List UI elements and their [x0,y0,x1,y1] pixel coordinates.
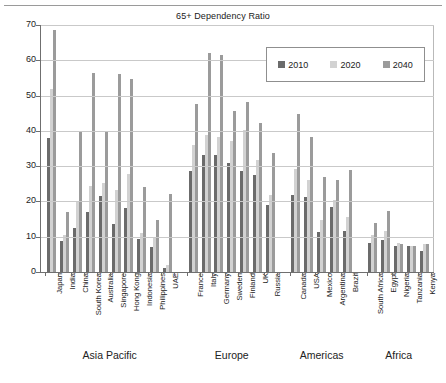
x-tick-mark [71,273,72,276]
x-tick-mark [97,273,98,276]
legend-label-2040: 2040 [393,60,413,70]
x-tick-mark [367,273,368,276]
gridline-30 [41,166,434,167]
bar-brazil-2040 [349,170,352,272]
y-tick-mark-30 [36,166,41,167]
legend-swatch-icon-2010 [278,61,285,68]
x-tick-label-sweden: Sweden [235,273,244,300]
gridline-20 [41,201,434,202]
y-tick-label-10: 10 [6,231,36,241]
x-tick-label-egypt: Egypt [389,273,398,292]
x-tick-mark [187,273,188,276]
bar-finland-2040 [246,102,249,272]
chart-figure: 65+ Dependency Ratio 010203040506070 201… [0,0,446,383]
y-tick-mark-60 [36,60,41,61]
y-tick-mark-20 [36,201,41,202]
y-tick-mark-70 [36,25,41,26]
x-tick-mark [110,273,111,276]
x-tick-mark [135,273,136,276]
x-tick-mark [418,273,419,276]
bar-uae-2040 [169,194,172,272]
x-tick-mark [174,273,175,276]
x-tick-label-hong-kong: Hong Kong [132,273,141,311]
x-tick-label-germany: Germany [222,273,231,304]
legend-swatch-icon-2040 [383,61,390,68]
bar-south-korea-2040 [92,73,95,272]
x-tick-mark [123,273,124,276]
x-tick-label-tanzania: Tanzania [415,273,424,303]
gridline-10 [41,237,434,238]
legend-item-2020[interactable]: 2020 [330,60,360,70]
legend-label-2020: 2020 [340,60,360,70]
y-tick-label-20: 20 [6,195,36,205]
gridline-70 [41,25,434,26]
top-divider-rule [4,5,442,6]
bar-germany-2040 [220,55,223,272]
group-label-americas: Americas [300,349,344,361]
x-tick-label-kenya: Kenya [428,273,437,295]
x-tick-mark [328,273,329,276]
x-tick-mark [45,273,46,276]
y-tick-label-50: 50 [6,90,36,100]
bar-egypt-2040 [387,211,390,272]
y-tick-label-40: 40 [6,125,36,135]
gridline-40 [41,131,434,132]
y-tick-label-0: 0 [6,266,36,276]
x-tick-mark [225,273,226,276]
x-axis-group-labels: Asia PacificEuropeAmericasAfrica [41,349,434,369]
bar-sweden-2040 [233,111,236,272]
x-tick-mark [392,273,393,276]
x-tick-label-uk: UK [261,273,270,284]
legend-item-2040[interactable]: 2040 [383,60,413,70]
bar-hong-kong-2040 [130,79,133,272]
x-tick-label-canada: Canada [299,273,308,300]
bar-india-2040 [66,212,69,272]
x-tick-label-italy: Italy [209,273,218,287]
x-tick-mark [302,273,303,276]
x-tick-label-indonesia: Indonesia [145,273,154,306]
x-tick-label-uae: UAE [171,273,180,289]
x-tick-label-south-korea: South Korea [94,273,103,315]
x-tick-label-usa: USA [312,273,321,289]
x-tick-mark [315,273,316,276]
bar-mexico-2040 [323,177,326,272]
bar-south-africa-2040 [374,223,377,272]
legend-label-2010: 2010 [288,60,308,70]
x-tick-mark [290,273,291,276]
x-tick-label-australia: Australia [106,273,115,303]
x-tick-mark [212,273,213,276]
x-tick-label-japan: Japan [55,273,64,294]
bar-kenya-2040 [426,244,429,272]
x-tick-label-china: China [81,273,90,293]
bar-philippines-2040 [156,220,159,272]
gridline-50 [41,96,434,97]
x-tick-mark [264,273,265,276]
x-tick-mark [341,273,342,276]
x-tick-mark [200,273,201,276]
bar-france-2040 [195,104,198,272]
x-tick-mark [405,273,406,276]
x-tick-label-singapore: Singapore [119,273,128,308]
x-tick-mark [84,273,85,276]
bar-russia-2040 [272,153,275,272]
bar-usa-2040 [310,137,313,272]
legend-item-2010[interactable]: 2010 [278,60,308,70]
x-tick-label-finland: Finland [248,273,257,298]
x-tick-mark [148,273,149,276]
group-label-africa: Africa [385,349,412,361]
group-label-asia-pacific: Asia Pacific [83,349,137,361]
x-tick-label-brazil: Brazil [351,273,360,292]
y-tick-label-30: 30 [6,160,36,170]
legend-swatch-icon-2020 [330,61,337,68]
bar-singapore-2040 [118,74,121,272]
bar-tanzania-2040 [413,246,416,272]
bar-uk-2040 [259,123,262,272]
bar-italy-2040 [208,53,211,272]
bar-nigeria-2040 [400,244,403,272]
x-tick-mark [58,273,59,276]
group-label-europe: Europe [215,349,249,361]
x-tick-label-france: France [196,273,205,297]
x-tick-mark [354,273,355,276]
x-tick-label-russia: Russia [273,273,282,296]
bar-canada-2040 [297,114,300,272]
